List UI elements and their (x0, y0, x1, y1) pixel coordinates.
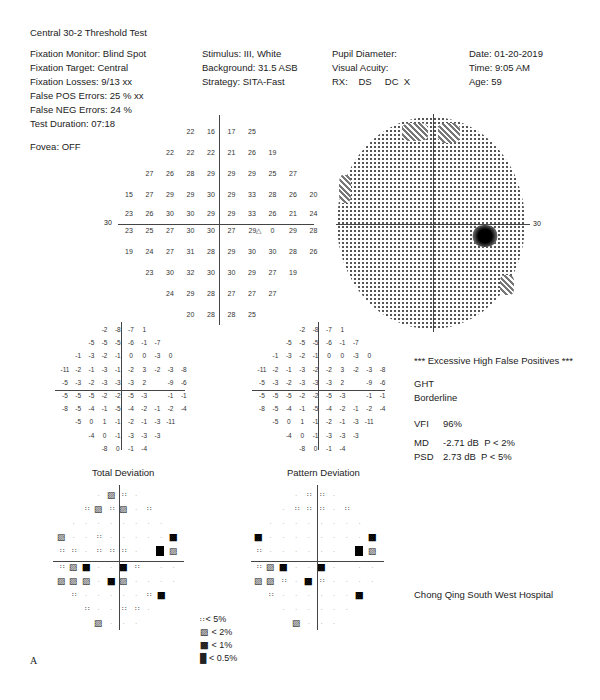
pd-prob-symbol: · (304, 590, 314, 600)
td-value: -3 (150, 352, 164, 359)
td-value: -8 (58, 405, 72, 412)
td-value: -4 (84, 432, 98, 439)
pd-prob-symbol: · (291, 576, 301, 586)
pd-value: -3 (349, 432, 363, 439)
td-prob-symbol: ∷ (119, 604, 129, 614)
pd-prob-symbol: · (329, 518, 339, 528)
threshold-value: 28 (203, 248, 219, 255)
pd-value: -2 (322, 366, 336, 373)
pd-prob-symbol: ∷ (342, 504, 352, 514)
td-prob-symbol: ∷ (69, 590, 79, 600)
pd-prob-symbol: · (291, 562, 301, 572)
td-prob-symbol: ∷ (144, 504, 154, 514)
td-prob-symbol: ▨ (69, 576, 79, 586)
pd-value: -4 (282, 432, 296, 439)
td-prob-symbol: ∷ (106, 546, 116, 556)
greyscale-horizontal-axis (336, 224, 530, 225)
pattern-deviation-title: Pattern Deviation (287, 467, 360, 478)
threshold-value: 29 (244, 170, 260, 177)
pd-value: -3 (335, 392, 349, 399)
threshold-value: 29△ (244, 227, 266, 235)
td-prob-symbol: · (94, 590, 104, 600)
pd-prob-symbol: ∷ (253, 562, 263, 572)
pd-value: -1 (335, 339, 349, 346)
td-value: 0 (84, 418, 98, 425)
pd-value: -5 (282, 392, 296, 399)
threshold-value: 22 (203, 149, 219, 156)
tdp-horizontal-axis (53, 561, 184, 562)
pd-value: -1 (349, 405, 363, 412)
td-value: -4 (137, 445, 151, 452)
threshold-value: 28 (306, 227, 322, 234)
threshold-value: 26 (265, 210, 281, 217)
td-prob-symbol: · (94, 490, 104, 500)
pd-value: -3 (322, 432, 336, 439)
pd-prob-symbol: · (291, 490, 301, 500)
td-value: -5 (71, 418, 85, 425)
pd-value: -3 (349, 418, 363, 425)
pd-prob-symbol: ∷ (317, 576, 327, 586)
td-prob-symbol: ∷ (131, 604, 141, 614)
pd-prob-symbol: · (278, 604, 288, 614)
pd-prob-symbol: · (342, 604, 352, 614)
pd-value: -3 (295, 366, 309, 373)
pd-prob-symbol: · (266, 546, 276, 556)
pd-value: -3 (362, 366, 376, 373)
td-prob-symbol: · (106, 590, 116, 600)
threshold-value: 26 (244, 149, 260, 156)
threshold-value: 27 (162, 248, 178, 255)
td-value: -4 (84, 405, 98, 412)
threshold-value: 26 (142, 210, 158, 217)
threshold-value: 0 (265, 227, 281, 234)
threshold-value: 30 (203, 227, 219, 234)
pd-value: -5 (322, 392, 336, 399)
pd-value: -1 (282, 366, 296, 373)
td-prob-symbol: · (119, 618, 129, 628)
pd-prob-symbol: ▩ (304, 576, 314, 586)
pd-value: -3 (268, 379, 282, 386)
td-vertical-axis (121, 322, 122, 450)
td-value: -8 (111, 326, 125, 333)
td-value: -4 (124, 405, 138, 412)
td-value: -8 (177, 366, 191, 373)
td-value: -3 (137, 392, 151, 399)
pd-prob-symbol: · (317, 618, 327, 628)
pd-value: -2 (282, 379, 296, 386)
patient-info-col4: Date: 01-20-2019 Time: 9:05 AM Age: 59 (469, 47, 543, 89)
td-prob-symbol: · (131, 532, 141, 542)
pd-value: -1 (309, 418, 323, 425)
threshold-value: 19 (121, 248, 137, 255)
pd-value: -5 (282, 339, 296, 346)
pd-value: -3 (295, 379, 309, 386)
td-prob-symbol: · (119, 590, 129, 600)
td-value: -2 (150, 366, 164, 373)
td-prob-symbol: · (106, 618, 116, 628)
pd-value: 3 (335, 366, 349, 373)
td-value: -3 (111, 379, 125, 386)
threshold-value: 29 (285, 227, 301, 234)
pd-value: 0 (322, 352, 336, 359)
td-value: -11 (58, 366, 72, 373)
td-prob-symbol: ▨ (94, 618, 104, 628)
background: Background: 31.5 ASB (202, 61, 298, 75)
pd-value: -1 (362, 392, 376, 399)
td-value: -2 (98, 352, 112, 359)
pd-prob-symbol: · (367, 576, 377, 586)
td-value: 0 (124, 352, 138, 359)
threshold-value: 30 (203, 269, 219, 276)
pd-prob-symbol: · (317, 518, 327, 528)
td-value: -1 (111, 366, 125, 373)
pd-value: 1 (335, 326, 349, 333)
td-prob-symbol: · (106, 562, 116, 572)
pd-prob-symbol: ▨ (266, 576, 276, 586)
greyscale-defect (438, 123, 460, 143)
threshold-value: 25 (244, 128, 260, 135)
hospital-name: Chong Qing South West Hospital (414, 589, 553, 600)
pd-value: -7 (322, 326, 336, 333)
td-value: -7 (124, 326, 138, 333)
pd-prob-symbol: · (355, 532, 365, 542)
greyscale-vertical-axis (433, 114, 434, 332)
pd-prob-symbol: ∷ (266, 590, 276, 600)
pd-prob-symbol: ∷ (278, 576, 288, 586)
threshold-value: 29 (224, 191, 240, 198)
